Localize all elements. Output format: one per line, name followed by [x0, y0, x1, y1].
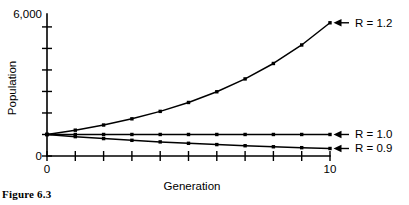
data-point-marker [300, 43, 303, 46]
data-point-marker [328, 21, 331, 24]
series-label: R = 0.9 [355, 142, 392, 154]
series-2 [45, 133, 331, 136]
series-line [47, 134, 330, 148]
data-point-marker [272, 62, 275, 65]
data-point-marker [243, 77, 246, 80]
figure-container: 6,000 0 0 10 Population Generation R = 1… [0, 0, 409, 205]
y-axis-title: Population [6, 61, 18, 115]
series-label: R = 1.0 [355, 128, 392, 140]
data-point-marker [45, 133, 48, 136]
series-label: R = 1.2 [355, 17, 392, 29]
data-point-marker [74, 135, 77, 138]
data-point-marker [130, 117, 133, 120]
data-point-marker [243, 144, 246, 147]
x-axis-zero-label: 0 [44, 163, 50, 175]
annotation-1: R = 1.2 [334, 17, 393, 29]
x-axis-title: Generation [164, 180, 221, 192]
series-1 [45, 21, 331, 136]
annotation-3: R = 0.9 [334, 142, 393, 154]
data-point-marker [187, 133, 190, 136]
y-axis-max-label: 6,000 [13, 8, 42, 20]
data-point-marker [187, 142, 190, 145]
data-point-marker [187, 101, 190, 104]
data-point-marker [300, 133, 303, 136]
data-point-marker [102, 123, 105, 126]
data-point-marker [215, 90, 218, 93]
data-point-marker [328, 147, 331, 150]
data-point-marker [159, 140, 162, 143]
data-point-marker [102, 137, 105, 140]
annotation-layer: R = 1.2R = 1.0R = 0.9 [334, 17, 393, 155]
data-point-marker [74, 128, 77, 131]
x-axis-max-label: 10 [324, 163, 337, 175]
data-point-marker [102, 133, 105, 136]
series-line [47, 23, 330, 135]
y-axis-zero-label: 0 [36, 150, 42, 162]
data-point-marker [215, 143, 218, 146]
data-point-marker [272, 133, 275, 136]
population-growth-chart: 6,000 0 0 10 Population Generation R = 1… [0, 0, 409, 205]
data-point-marker [328, 133, 331, 136]
figure-caption: Figure 6.3 [2, 188, 51, 200]
data-point-marker [130, 139, 133, 142]
series-layer [45, 21, 331, 150]
data-point-marker [243, 133, 246, 136]
data-point-marker [159, 110, 162, 113]
data-point-marker [300, 146, 303, 149]
annotation-2: R = 1.0 [334, 128, 393, 140]
data-point-marker [159, 133, 162, 136]
data-point-marker [272, 145, 275, 148]
annotation-arrow-head [334, 145, 342, 153]
data-point-marker [215, 133, 218, 136]
annotation-arrow-head [334, 131, 342, 139]
data-point-marker [130, 133, 133, 136]
annotation-arrow-head [334, 19, 342, 27]
